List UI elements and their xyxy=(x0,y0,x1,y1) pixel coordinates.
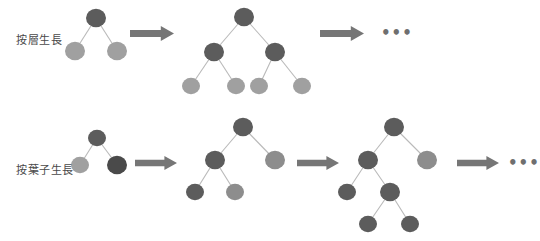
tree-node xyxy=(182,78,200,95)
tree-leaf-wise-tree-1 xyxy=(71,130,127,174)
tree-leaf-wise-tree-2 xyxy=(186,118,285,200)
tree-node xyxy=(227,78,245,95)
tree-leaf-wise-tree-3 xyxy=(338,118,437,232)
arrow-shape xyxy=(135,156,177,170)
tree-node xyxy=(359,216,377,233)
tree-node xyxy=(401,216,419,233)
tree-node xyxy=(250,78,268,95)
arrow-icon xyxy=(135,156,177,170)
arrow-icon xyxy=(130,26,174,41)
row-label-level-wise: 按層生長 xyxy=(16,31,62,47)
tree-node xyxy=(107,156,127,174)
tree-node xyxy=(234,8,254,26)
continuation-ellipsis-level-wise: ••• xyxy=(381,26,413,41)
tree-level-wise-tree-1 xyxy=(65,9,127,60)
row-label-leaf-wise: 按葉子生長 xyxy=(16,161,74,177)
tree-node xyxy=(88,130,106,147)
arrow-shape xyxy=(320,26,364,41)
tree-node xyxy=(204,43,224,61)
arrow-icon xyxy=(297,156,339,170)
arrow-shape xyxy=(297,156,339,170)
tree-node xyxy=(107,42,127,60)
arrow-icon xyxy=(320,26,364,41)
tree-node xyxy=(186,184,204,201)
tree-node xyxy=(233,118,253,136)
tree-node xyxy=(417,151,437,169)
tree-node xyxy=(338,184,356,201)
arrow-icon xyxy=(457,156,499,170)
tree-node xyxy=(265,151,285,169)
tree-node xyxy=(86,9,106,27)
continuation-ellipsis-leaf-wise: ••• xyxy=(508,156,540,171)
tree-node xyxy=(205,151,225,169)
arrow-shape xyxy=(457,156,499,170)
tree-node xyxy=(65,42,85,60)
tree-node xyxy=(358,151,378,169)
tree-node xyxy=(293,78,311,95)
tree-level-wise-tree-2 xyxy=(182,8,311,94)
tree-node xyxy=(380,183,400,201)
tree-node xyxy=(226,184,244,201)
tree-node xyxy=(265,43,285,61)
arrow-shape xyxy=(130,26,174,41)
tree-node xyxy=(384,118,404,136)
